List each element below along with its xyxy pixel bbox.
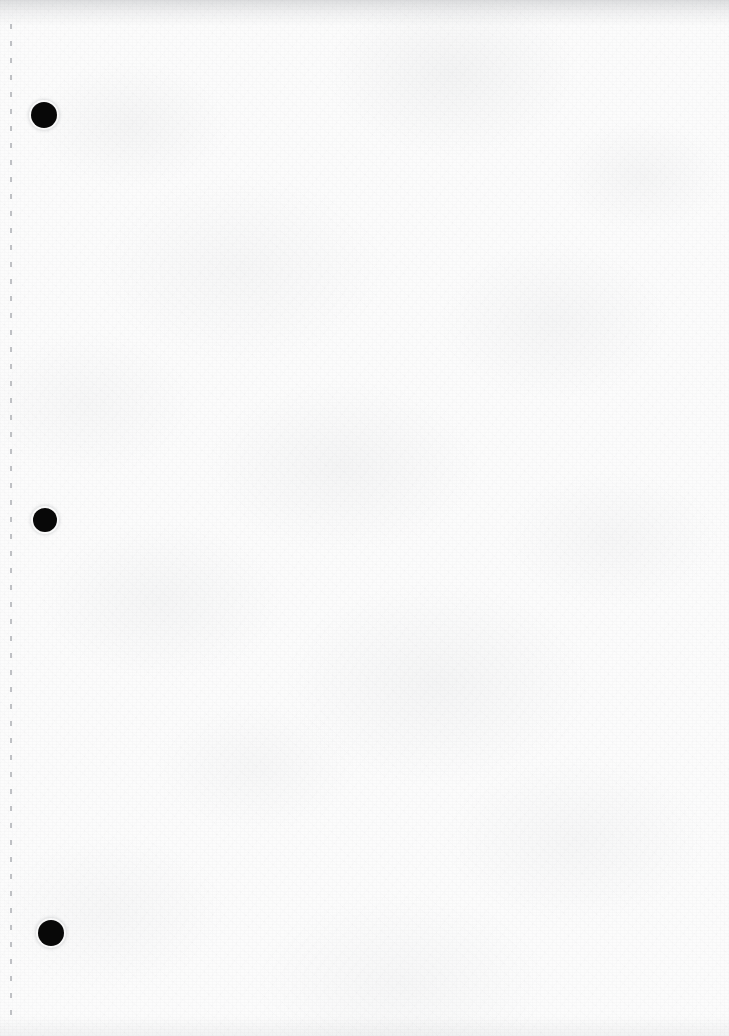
scanned-page (0, 0, 729, 1036)
punch-hole-bottom-hole (38, 920, 64, 946)
paper-grain (0, 0, 729, 1036)
left-margin-dashed-line (10, 24, 12, 1024)
bottom-edge-shadow (0, 1016, 729, 1036)
punch-hole-top-hole (31, 102, 57, 128)
punch-hole-middle-hole (33, 508, 57, 532)
top-edge-shadow (0, 0, 729, 26)
